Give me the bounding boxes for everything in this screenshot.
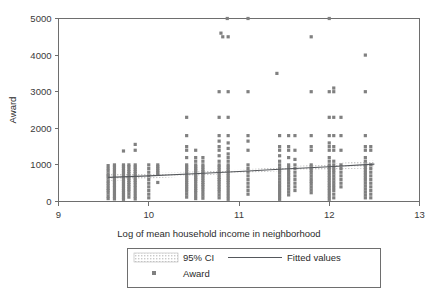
- scatter-point: [339, 134, 342, 137]
- legend-label-award: Award: [183, 268, 210, 279]
- scatter-point: [134, 186, 137, 189]
- scatter-point: [227, 90, 230, 93]
- x-tick-label: 12: [324, 209, 335, 220]
- scatter-point: [369, 178, 372, 181]
- scatter-point: [310, 163, 313, 166]
- scatter-point: [364, 149, 367, 152]
- scatter-point: [185, 116, 188, 119]
- scatter-point: [310, 191, 313, 194]
- scatter-point: [310, 171, 313, 174]
- scatter-point: [134, 192, 137, 195]
- x-axis-title: Log of mean household income in neighbor…: [117, 228, 320, 239]
- scatter-point: [134, 149, 137, 152]
- scatter-point: [218, 140, 221, 143]
- scatter-point: [364, 90, 367, 93]
- scatter-point: [287, 193, 290, 196]
- scatter-point: [134, 189, 137, 192]
- y-tick-label: 1000: [30, 159, 51, 170]
- scatter-point: [328, 198, 331, 201]
- scatter-point: [227, 186, 230, 189]
- scatter-point: [293, 134, 296, 137]
- scatter-point: [369, 196, 372, 199]
- legend: 95% CI Fitted values Award: [128, 249, 381, 288]
- scatter-point: [113, 192, 116, 195]
- scatter-point: [364, 179, 367, 182]
- scatter-point: [332, 177, 335, 180]
- scatter-point: [328, 156, 331, 159]
- scatter-point: [364, 185, 367, 188]
- scatter-point: [287, 149, 290, 152]
- scatter-point: [107, 197, 110, 200]
- scatter-point: [328, 192, 331, 195]
- scatter-point: [293, 178, 296, 181]
- scatter-point: [147, 163, 150, 166]
- legend-swatch-award: [152, 271, 156, 275]
- scatter-point: [127, 196, 130, 199]
- scatter-point: [278, 177, 281, 180]
- scatter-point: [332, 171, 335, 174]
- scatter-point: [310, 149, 313, 152]
- scatter-point: [328, 195, 331, 198]
- y-axis-title: Award: [7, 97, 18, 124]
- scatter-point: [332, 183, 335, 186]
- scatter-point: [147, 196, 150, 199]
- scatter-point: [369, 171, 372, 174]
- scatter-point: [287, 190, 290, 193]
- legend-label-ci: 95% CI: [183, 252, 214, 263]
- scatter-point: [310, 90, 313, 93]
- scatter-point: [364, 190, 367, 193]
- scatter-point: [227, 189, 230, 192]
- scatter-point: [278, 145, 281, 148]
- scatter-point: [122, 198, 125, 201]
- scatter-point: [287, 134, 290, 137]
- scatter-point: [227, 147, 230, 150]
- scatter-point: [278, 192, 281, 195]
- scatter-point: [369, 149, 372, 152]
- scatter-point: [218, 116, 221, 119]
- scatter-point: [278, 171, 281, 174]
- scatter-point: [218, 196, 221, 199]
- scatter-point: [293, 149, 296, 152]
- scatter-point: [369, 174, 372, 177]
- scatter-point: [369, 182, 372, 185]
- y-axis: 010002000300040005000: [30, 13, 58, 207]
- scatter-point: [134, 143, 137, 146]
- scatter-point: [364, 193, 367, 196]
- scatter-point: [287, 156, 290, 159]
- x-axis: 910111213: [56, 202, 425, 220]
- scatter-point: [287, 179, 290, 182]
- x-tick-label: 9: [56, 209, 61, 220]
- scatter-point: [185, 190, 188, 193]
- scatter-point: [310, 182, 313, 185]
- plot-area: [59, 17, 420, 202]
- scatter-point: [278, 186, 281, 189]
- scatter-point: [293, 174, 296, 177]
- scatter-point: [218, 190, 221, 193]
- scatter-point: [328, 189, 331, 192]
- scatter-point: [364, 145, 367, 148]
- scatter-point: [332, 196, 335, 199]
- scatter-point: [278, 180, 281, 183]
- scatter-point: [293, 158, 296, 161]
- scatter-point: [246, 167, 249, 170]
- scatter-point: [194, 194, 197, 197]
- scatter-point: [194, 160, 197, 163]
- scatter-point: [293, 189, 296, 192]
- scatter-point: [293, 182, 296, 185]
- scatter-point: [332, 90, 335, 93]
- scatter-point: [339, 178, 342, 181]
- scatter-point: [218, 145, 221, 148]
- scatter-point: [134, 197, 137, 200]
- scatter-point: [218, 134, 221, 137]
- scatter-point: [332, 193, 335, 196]
- scatter-point: [339, 116, 342, 119]
- scatter-point: [293, 163, 296, 166]
- scatter-point: [218, 149, 221, 152]
- scatter-point: [332, 116, 335, 119]
- scatter-point: [246, 182, 249, 185]
- scatter-point: [227, 160, 230, 163]
- scatter-point: [364, 156, 367, 159]
- scatter-point: [227, 192, 230, 195]
- scatter-point: [332, 149, 335, 152]
- scatter-point: [332, 180, 335, 183]
